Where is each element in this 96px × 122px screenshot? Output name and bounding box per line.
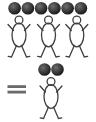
ball-left [35,2,48,15]
equals-bar-bottom [8,91,27,94]
figure-arms [38,25,60,31]
stick-figure-right [40,78,62,119]
figure-body [12,23,26,47]
ball-right [51,63,64,76]
stick-figure-left [66,16,88,57]
figure-body [70,23,84,47]
figure-body [44,85,58,109]
figure-body [42,23,56,47]
ball-left [75,2,88,15]
equals-bar-top [8,85,27,88]
stick-figure-left [38,16,60,57]
ball-left [8,2,21,15]
stick-figure-left [8,16,30,57]
ball-left [22,2,35,15]
ball-left [48,2,61,15]
figure-arms [40,86,62,92]
equals-sign [8,85,27,93]
picture-equation-diagram [0,0,96,122]
figure-arms [8,25,30,31]
ball-right [38,63,51,76]
ball-left [61,2,74,15]
figure-arms [66,25,88,31]
diagram-canvas [0,0,96,122]
